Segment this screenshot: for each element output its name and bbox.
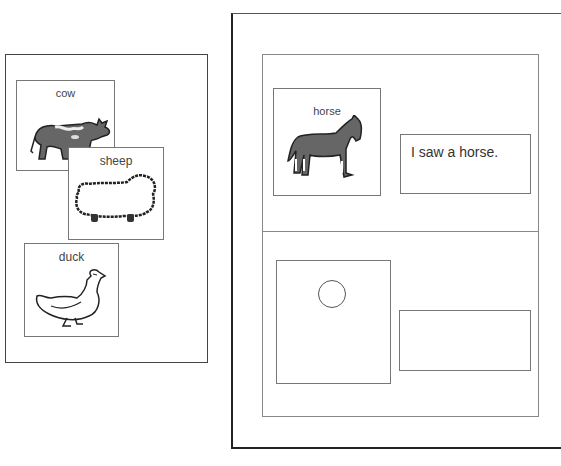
sheep-card[interactable]: sheep [68, 147, 164, 240]
sentence-box-filled[interactable]: I saw a horse. [400, 134, 531, 194]
sentence-text: I saw a horse. [411, 144, 498, 160]
horse-card[interactable]: horse [273, 88, 381, 196]
row-divider [262, 231, 539, 232]
sheep-label: sheep [69, 154, 163, 168]
sentence-box-empty[interactable] [399, 310, 531, 371]
duck-icon [31, 266, 116, 334]
circle-placeholder-icon [317, 279, 347, 309]
duck-label: duck [25, 250, 118, 264]
horse-icon [286, 115, 370, 185]
cow-label: cow [17, 87, 114, 99]
duck-card[interactable]: duck [24, 243, 119, 337]
empty-symbol-card[interactable] [276, 260, 391, 384]
sheep-icon [73, 170, 161, 236]
